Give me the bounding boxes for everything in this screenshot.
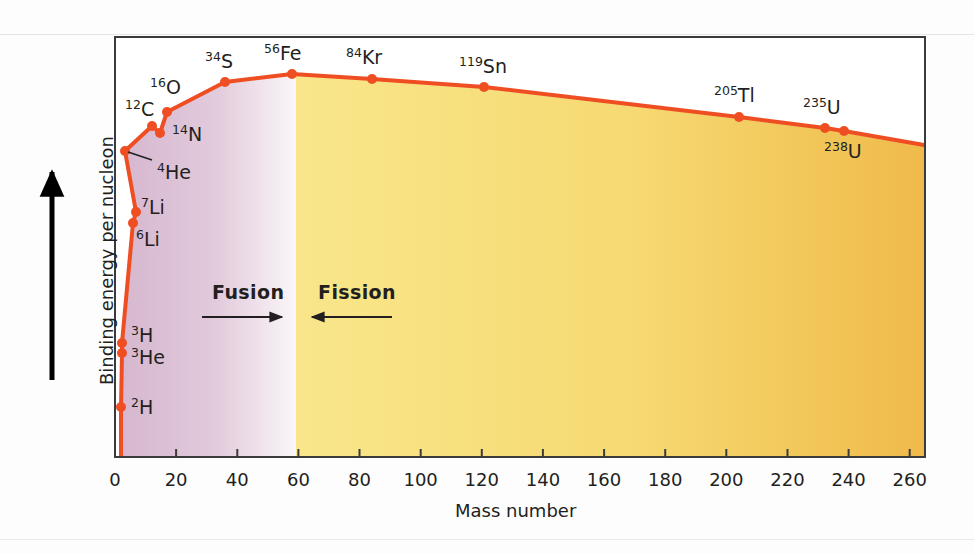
page-background: Binding energy per nucleon Mass number 0… — [0, 0, 974, 554]
nuclide-label-119Sn: 119Sn — [459, 57, 507, 76]
mass-number-3He: 3 — [131, 345, 139, 360]
mass-number-2H: 2 — [131, 395, 139, 410]
nuclide-label-3He: 3He — [131, 348, 165, 367]
data-point-12C — [147, 121, 157, 131]
data-point-16O — [162, 107, 172, 117]
nuclide-label-2H: 2H — [131, 398, 153, 417]
mass-number-14N: 14 — [172, 122, 188, 137]
mass-number-205Tl: 205 — [714, 83, 738, 98]
nuclide-label-238U: 238U — [824, 142, 862, 161]
fission-region-fill — [296, 74, 925, 457]
x-axis-title: Mass number — [455, 500, 576, 521]
y-axis-title: Binding energy per nucleon — [96, 136, 117, 385]
nuclide-label-16O: 16O — [150, 78, 181, 97]
mass-number-56Fe: 56 — [264, 41, 280, 56]
mass-number-7Li: 7 — [141, 195, 149, 210]
x-tick-label-0: 0 — [85, 469, 145, 490]
mass-number-84Kr: 84 — [346, 45, 362, 60]
x-tick-label-100: 100 — [391, 469, 451, 490]
mass-number-6Li: 6 — [136, 227, 144, 242]
x-tick-label-20: 20 — [146, 469, 206, 490]
mass-number-235U: 235 — [803, 95, 827, 110]
data-point-235U — [820, 123, 830, 133]
data-point-14N — [155, 128, 165, 138]
nuclide-label-3H: 3H — [131, 326, 153, 345]
nuclide-label-56Fe: 56Fe — [264, 44, 302, 63]
region-label-fission: Fission — [318, 281, 396, 303]
nuclide-label-34S: 34S — [205, 52, 233, 71]
nuclide-label-14N: 14N — [172, 125, 202, 144]
mass-number-16O: 16 — [150, 75, 166, 90]
data-point-56Fe — [287, 69, 297, 79]
x-tick-label-240: 240 — [819, 469, 879, 490]
x-tick-label-140: 140 — [513, 469, 573, 490]
x-tick-label-40: 40 — [207, 469, 267, 490]
nuclide-label-235U: 235U — [803, 98, 841, 117]
nuclide-label-12C: 12C — [125, 100, 154, 119]
nuclide-label-84Kr: 84Kr — [346, 48, 382, 67]
data-point-84Kr — [367, 74, 377, 84]
data-point-205Tl — [734, 112, 744, 122]
data-point-4He — [120, 146, 130, 156]
x-tick-label-260: 260 — [880, 469, 940, 490]
data-point-3He — [117, 348, 127, 358]
nuclide-label-205Tl: 205Tl — [714, 86, 755, 105]
mass-number-119Sn: 119 — [459, 54, 483, 69]
binding-energy-figure: Binding energy per nucleon Mass number 0… — [0, 0, 974, 554]
x-tick-label-60: 60 — [268, 469, 328, 490]
x-tick-label-160: 160 — [574, 469, 634, 490]
mass-number-3H: 3 — [131, 323, 139, 338]
mass-number-238U: 238 — [824, 139, 848, 154]
x-tick-label-120: 120 — [452, 469, 512, 490]
data-point-2H — [116, 402, 126, 412]
x-tick-label-80: 80 — [330, 469, 390, 490]
mass-number-34S: 34 — [205, 49, 221, 64]
data-point-3H — [117, 338, 127, 348]
nuclide-label-4He: 4He — [157, 163, 191, 182]
x-tick-label-220: 220 — [757, 469, 817, 490]
mass-number-12C: 12 — [125, 97, 141, 112]
data-point-34S — [220, 77, 230, 87]
mass-number-4He: 4 — [157, 160, 165, 175]
region-label-fusion: Fusion — [212, 281, 284, 303]
nuclide-label-6Li: 6Li — [136, 230, 160, 249]
x-tick-label-200: 200 — [696, 469, 756, 490]
nuclide-label-7Li: 7Li — [141, 198, 165, 217]
data-point-119Sn — [479, 82, 489, 92]
data-point-7Li — [131, 207, 141, 217]
data-point-238U — [839, 126, 849, 136]
x-tick-label-180: 180 — [635, 469, 695, 490]
